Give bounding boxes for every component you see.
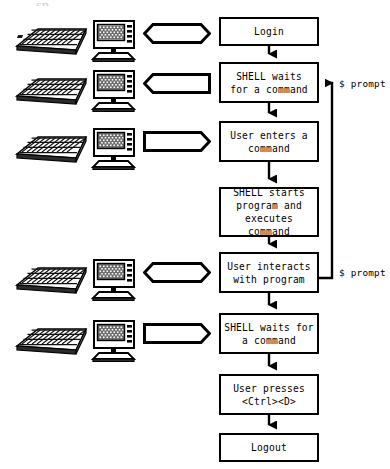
keyboard-icon [17, 137, 86, 162]
keyboard-icon [17, 79, 86, 104]
callout-login-hexagon [143, 23, 211, 44]
callout-interact-hexagon [143, 262, 211, 283]
right-arrow-shape [145, 133, 210, 151]
node-logout-label: Logout [251, 441, 287, 454]
node-shell-starts-program-label: SHELL starts program and executes comman… [224, 186, 314, 238]
device-row-usercmd [14, 126, 139, 171]
hexagon-shape [145, 264, 210, 282]
monitor-icon [93, 260, 134, 301]
flowchart-canvas: sp Login SHELL waits for a co [0, 0, 390, 469]
edge-feedback-prompt [319, 83, 332, 278]
annotation-prompt-top: $ prompt [339, 78, 386, 89]
monitor-icon [93, 71, 134, 112]
device-row-interact [14, 257, 139, 302]
monitor-icon [93, 129, 134, 170]
node-shell-waits-2-label: SHELL waits for a command [224, 321, 314, 347]
device-row-login [14, 18, 139, 63]
node-login-label: Login [254, 25, 284, 38]
keyboard-icon [17, 268, 86, 293]
node-shell-waits-2[interactable]: SHELL waits for a command [219, 313, 319, 354]
callout-shellwait1-left-arrow [143, 73, 211, 94]
annotation-prompt-bottom: $ prompt [339, 267, 386, 278]
node-user-enters-command[interactable]: User enters a command [219, 121, 319, 162]
node-user-interacts-label: User interacts with program [227, 260, 311, 286]
node-user-enters-command-label: User enters a command [230, 129, 308, 155]
node-user-presses-ctrl-d[interactable]: User presses <Ctrl><D> [219, 374, 319, 415]
node-shell-waits-1[interactable]: SHELL waits for a command [219, 62, 319, 103]
node-user-presses-ctrl-d-label: User presses <Ctrl><D> [233, 382, 305, 408]
node-user-interacts[interactable]: User interacts with program [219, 252, 319, 293]
monitor-icon [93, 21, 134, 62]
monitor-icon [93, 321, 134, 362]
device-row-shellwait1 [14, 68, 139, 113]
keyboard-icon [17, 329, 86, 354]
node-logout[interactable]: Logout [219, 433, 319, 462]
node-login[interactable]: Login [219, 17, 319, 46]
hexagon-shape [145, 25, 210, 43]
left-arrow-shape [145, 75, 210, 93]
node-shell-waits-1-label: SHELL waits for a command [230, 70, 308, 96]
keyboard-icon [17, 29, 86, 54]
right-arrow-shape [145, 325, 210, 343]
callout-usercmd-right-arrow [143, 131, 211, 152]
node-shell-starts-program[interactable]: SHELL starts program and executes comman… [219, 187, 319, 237]
callout-shellwait2-right-arrow [143, 323, 211, 344]
device-row-shellwait2 [14, 318, 139, 363]
